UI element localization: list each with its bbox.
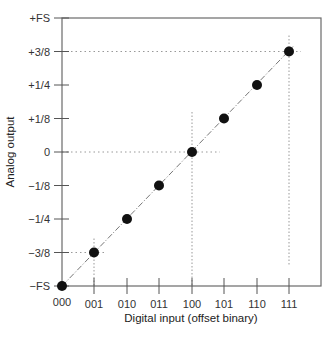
dac-transfer-chart: −FS−3/8−1/4−1/80+1/8+1/4+3/8+FS 00000101…: [0, 0, 334, 341]
data-points: [57, 47, 294, 292]
x-tick-label: 110: [248, 298, 266, 310]
y-tick-label: −1/4: [28, 213, 50, 225]
x-tick-label: 100: [183, 298, 201, 310]
x-tick-label: 011: [150, 298, 168, 310]
x-tick-label: 111: [281, 298, 298, 310]
data-point: [89, 248, 99, 258]
y-tick-label: +FS: [30, 12, 50, 24]
y-tick-label: +1/8: [28, 113, 50, 125]
data-point: [252, 80, 262, 90]
x-tick-label: 000: [53, 296, 71, 308]
y-axis-title: Analog output: [4, 116, 16, 188]
data-point: [219, 114, 229, 124]
data-point: [122, 214, 132, 224]
y-tick-label: +3/8: [28, 46, 50, 58]
y-tick-label: −1/8: [28, 180, 50, 192]
y-tick-label: 0: [44, 146, 50, 158]
x-axis-title: Digital input (offset binary): [124, 312, 258, 324]
data-point: [284, 47, 294, 57]
data-point: [154, 181, 164, 191]
x-tick-label: 101: [215, 298, 233, 310]
data-point: [57, 281, 67, 291]
x-tick-label: 001: [85, 298, 103, 310]
y-tick-label: −FS: [30, 280, 50, 292]
y-tick-label: −3/8: [28, 247, 50, 259]
y-axis-ticks: −FS−3/8−1/4−1/80+1/8+1/4+3/8+FS: [28, 12, 69, 292]
x-axis-ticks: 000001010011100101110111: [53, 278, 298, 310]
data-point: [187, 147, 197, 157]
guide-lines: [62, 36, 301, 287]
x-tick-label: 010: [118, 298, 136, 310]
y-tick-label: +1/4: [28, 79, 50, 91]
